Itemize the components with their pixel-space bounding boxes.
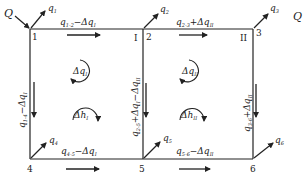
outflow-arrow-icon [31,143,46,158]
pipe-4-5-label: q4-5−ΔqI [61,146,98,157]
outflow-label-q2: q2 [160,4,169,15]
outflows [31,11,273,158]
outflow-label-q4: q4 [49,135,58,146]
flow-direction-arrows [34,35,256,169]
outflow-arrow-icon [254,14,268,28]
outflow-arrow-icon [144,142,160,158]
loop-I-dq-label: ΔqI [72,66,88,77]
node-1-label: 1 [32,32,38,42]
loop-II-dq-label: ΔqII [181,66,199,77]
pipe-2-5-label: q2-5+ΔqI−ΔqII [130,77,141,137]
node-5-label: 5 [139,164,145,174]
pipe-network-diagram: Q Q q1 q2 q3 q4 q5 q6 1 2 3 4 5 6 I II [0,0,306,182]
outflow-arrow-icon [31,11,45,28]
pipe-1-4-label: q1-4−ΔqI [17,91,28,128]
loop-II-corrections: ΔqII ΔhII [180,60,204,121]
outflow-arrow-icon [144,14,158,28]
node-2-label: 2 [146,32,152,42]
pipe-1-2-label: q1-2−ΔqI [60,17,97,28]
node-6-label: 6 [250,164,256,174]
outflow-arrow-icon [254,143,273,158]
loop-I-corrections: ΔqI ΔhI [71,60,98,121]
pipe-network [30,29,253,159]
loop-I-dh-label: ΔhI [73,110,89,121]
node-3-label: 3 [256,28,262,38]
outflow-label-q6: q6 [275,135,285,146]
pipe-3-6-label: q3-6+ΔqII [242,93,253,132]
inflow-arrow-icon [15,16,29,28]
loop-II-label: II [240,33,248,43]
loop-II-dh-label: ΔhII [180,110,198,121]
outflow-label-q5: q5 [163,133,172,144]
outflow-label-q3: q3 [270,3,279,14]
node-4-label: 4 [27,164,33,174]
outflow-label-q1: q1 [48,3,57,14]
source-label: Q [4,7,13,20]
source-label-right: Q [293,10,302,23]
pipe-2-3-label: q2-3+ΔqII [176,17,215,28]
pipe-5-6-label: q5-6−ΔqII [176,146,215,157]
loop-I-label: I [134,33,138,43]
